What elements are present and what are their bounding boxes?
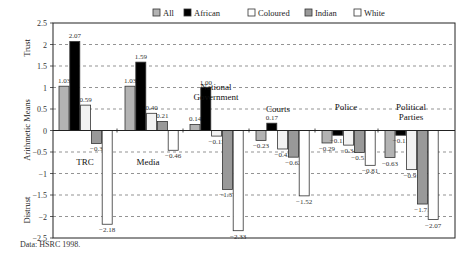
y-tick-label: 1.5 [37,62,47,71]
category-label: National [201,82,232,92]
bar-all [125,86,135,130]
legend-label-indian: Indian [315,8,337,18]
value-label: −2.33 [230,233,247,241]
y-label-distrust: Distrust [22,196,32,224]
category-label: Political [396,102,426,112]
legend-swatch-all [153,9,160,16]
y-tick-label: −0.5 [32,148,47,157]
bar-coloured [147,113,157,130]
category-label: Parties [399,112,424,122]
category-label: Government [194,92,239,102]
value-label: −0.29 [319,145,336,153]
y-tick-label: 0.5 [37,105,47,114]
value-label: 0.59 [79,96,92,104]
y-tick-label: 0 [43,127,47,136]
bar-all [59,86,69,130]
legend-swatch-indian [305,9,312,16]
legend-swatch-coloured [248,9,255,16]
value-label: 0.21 [156,112,169,120]
bar-coloured [278,131,288,149]
value-label: 1.03 [124,77,137,85]
bar-white [299,131,309,196]
bar-indian [91,131,101,144]
bar-indian [157,121,167,130]
bar-coloured [344,131,354,146]
value-label: 1.59 [135,53,148,61]
bar-coloured [407,131,417,170]
bar-indian [417,131,427,205]
category-label: Media [137,157,160,167]
bar-white [428,131,438,220]
bar-indian [222,131,232,190]
legend-label-white: White [364,8,385,18]
bar-white [102,131,112,225]
value-label: 1.03 [58,77,71,85]
bar-coloured [212,131,222,137]
bar-coloured [81,105,91,130]
legend-label-african: African [194,8,221,18]
legend-swatch-white [354,9,361,16]
value-label: −2.18 [99,226,116,234]
y-axis-title: Arithmetic Means [22,99,32,161]
category-label: TRC [76,157,94,167]
y-tick-label: 1 [43,84,47,93]
value-label: 2.07 [69,32,82,40]
value-label: −0.46 [165,152,182,160]
y-tick-label: −2 [38,213,47,222]
bar-white [168,131,178,151]
bar-african [70,41,80,130]
y-label-trust: Trust [22,39,32,57]
bar-indian [354,131,364,153]
bar-african [396,131,406,136]
y-tick-label: −1.5 [32,191,47,200]
value-label: −2.07 [425,222,442,230]
bar-all [190,124,200,130]
bar-african [267,123,277,130]
value-label: 0.40 [145,104,158,112]
value-label: −0.81 [362,167,379,175]
y-tick-label: 2 [43,41,47,50]
bar-african [333,131,343,136]
bar-white [233,131,243,231]
legend-label-all: All [163,8,175,18]
bar-white [365,131,375,166]
source-note: Data: HSRC 1998. [20,240,80,249]
bar-indian [288,131,298,158]
bar-chart: 2.521.510.50−0.5−1−1.5−2−2.51.032.070.59… [0,0,475,258]
value-label: −1.52 [296,198,313,206]
y-tick-label: −1 [38,170,47,179]
value-label: −0.23 [253,142,270,150]
category-label: Courts [266,104,291,114]
value-label: 0.14 [189,115,202,123]
legend-swatch-african [184,9,191,16]
value-label: −0.3 [90,145,103,153]
bar-african [136,62,146,130]
category-label: Police [335,102,358,112]
value-label: −0.63 [382,160,399,168]
bar-all [256,131,266,141]
y-tick-label: 2.5 [37,19,47,28]
value-label: 0.17 [266,114,279,122]
legend-label-coloured: Coloured [258,8,290,18]
